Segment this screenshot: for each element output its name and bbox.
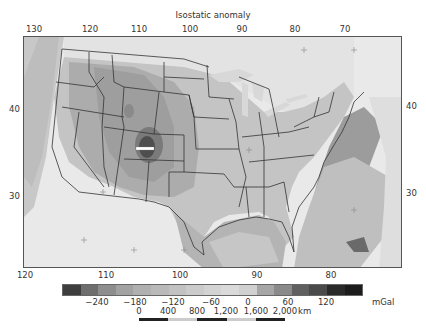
top-longitude-tick: 70 — [340, 24, 351, 34]
right-latitude-tick: 30 — [406, 188, 417, 198]
scale-bar-segment — [227, 318, 256, 321]
colorbar-segment — [116, 285, 134, 295]
scale-bar-segment — [197, 318, 226, 321]
scale-bar-label: 400 — [160, 306, 176, 316]
colorbar-segment — [257, 285, 275, 295]
colorbar-segment — [309, 285, 327, 295]
colorbar-segment — [345, 285, 363, 295]
colorbar-segment — [221, 285, 239, 295]
bottom-longitude-tick: 100 — [172, 270, 188, 280]
colorbar-segment — [239, 285, 257, 295]
figure-title: Isostatic anomaly — [0, 10, 426, 20]
map-graphic — [24, 37, 402, 268]
colorbar-segment — [327, 285, 345, 295]
colorbar-tick-label: −180 — [123, 297, 146, 307]
colorbar-segment — [292, 285, 310, 295]
colorbar-segment — [81, 285, 99, 295]
colorbar-tick-label: 120 — [318, 297, 334, 307]
left-latitude-tick: 40 — [9, 104, 20, 114]
top-longitude-tick: 90 — [237, 24, 248, 34]
colorbar-segment — [186, 285, 204, 295]
scale-bar-segment — [168, 318, 197, 321]
left-latitude-tick: 30 — [9, 191, 20, 201]
colorbar-segment — [151, 285, 169, 295]
colorbar-segment — [204, 285, 222, 295]
bottom-longitude-tick: 80 — [326, 270, 337, 280]
scale-bar-label: 800 — [189, 306, 205, 316]
scale-bar-label: 0 — [136, 306, 141, 316]
scale-bar-unit: km — [298, 306, 311, 316]
top-longitude-tick: 110 — [131, 24, 147, 34]
bottom-longitude-tick: 120 — [17, 270, 33, 280]
top-longitude-tick: 80 — [290, 24, 301, 34]
colorbar-segment — [133, 285, 151, 295]
top-longitude-tick: 120 — [82, 24, 98, 34]
top-longitude-tick: 130 — [26, 24, 42, 34]
scale-bar-label: 1,600 — [244, 306, 268, 316]
colorbar — [62, 284, 363, 296]
colorbar-segment — [63, 285, 81, 295]
colorbar-segment — [274, 285, 292, 295]
scale-bar-label: 1,200 — [214, 306, 238, 316]
colorbar-tick-label: −240 — [85, 297, 108, 307]
colorbar-unit: mGal — [372, 297, 394, 307]
top-longitude-tick: 100 — [182, 24, 198, 34]
bottom-longitude-tick: 90 — [252, 270, 263, 280]
colorbar-segment — [98, 285, 116, 295]
right-latitude-tick: 40 — [406, 101, 417, 111]
bottom-longitude-tick: 110 — [98, 270, 114, 280]
colorbar-segment — [169, 285, 187, 295]
scale-bar-segment — [139, 318, 168, 321]
isostatic-anomaly-map — [23, 36, 402, 268]
scale-bar-label: 2,000 — [273, 306, 297, 316]
scale-bar-segment — [256, 318, 285, 321]
scale-bar — [139, 318, 285, 321]
